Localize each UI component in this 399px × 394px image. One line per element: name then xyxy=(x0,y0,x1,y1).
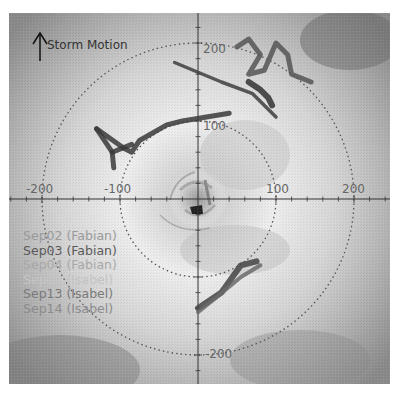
legend: Sep02 (Fabian)Sep03 (Fabian)Sep04 (Fabia… xyxy=(23,228,117,316)
legend-entry: Sep02 (Fabian) xyxy=(23,228,117,243)
legend-entry: Sep12 (Isabel) xyxy=(23,272,113,287)
x-tick-label: 200 xyxy=(342,182,365,196)
storm-motion-label: Storm Motion xyxy=(47,38,128,52)
storm-relative-track-chart: -200 -100 100 200 200 100 -200 Storm Mot… xyxy=(0,0,399,394)
x-tick-label: -200 xyxy=(26,182,53,196)
legend-entry: Sep04 (Fabian) xyxy=(23,257,117,272)
y-tick-label: 100 xyxy=(203,119,226,133)
y-tick-label: -200 xyxy=(205,347,232,361)
legend-entry: Sep13 (Isabel) xyxy=(23,286,113,301)
legend-entry: Sep03 (Fabian) xyxy=(23,243,117,258)
x-tick-label: -100 xyxy=(104,182,131,196)
legend-entry: Sep14 (Isabel) xyxy=(23,301,113,316)
x-tick-label: 100 xyxy=(266,182,289,196)
satellite-background xyxy=(0,10,399,394)
track-line xyxy=(112,152,114,168)
y-tick-label: 200 xyxy=(203,42,226,56)
